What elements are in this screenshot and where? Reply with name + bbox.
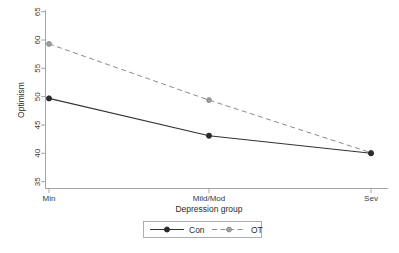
- y-tick-label-50: 50: [33, 92, 42, 101]
- legend-marker-con: [164, 227, 169, 232]
- y-tick-label-35: 35: [33, 177, 42, 186]
- legend-label-con: Con: [189, 225, 205, 235]
- series-ot-point-min: [47, 41, 52, 46]
- y-axis-title: Optimism: [16, 82, 26, 118]
- legend-label-ot: OT: [251, 225, 263, 235]
- y-tick-label-40: 40: [33, 148, 42, 157]
- y-tick-label-55: 55: [33, 63, 42, 72]
- y-tick-label-45: 45: [33, 120, 42, 129]
- y-tick-marks: [41, 12, 46, 182]
- chart-figure: 65 60 55 50 45 40 35 Optimism Min Mild/M…: [0, 0, 399, 253]
- x-tick-label-sev: Sev: [364, 194, 378, 203]
- series-con-line: [49, 98, 371, 153]
- x-tick-labels: Min Mild/Mod Sev: [43, 194, 378, 203]
- series-con-point-mildmod: [206, 133, 211, 138]
- series-ot-point-mildmod: [207, 98, 212, 103]
- y-tick-label-65: 65: [33, 7, 42, 16]
- chart-legend: Con OT: [144, 222, 263, 238]
- y-tick-label-60: 60: [33, 35, 42, 44]
- x-tick-label-mildmod: Mild/Mod: [193, 194, 225, 203]
- x-tick-label-min: Min: [43, 194, 56, 203]
- x-axis-title: Depression group: [175, 204, 242, 214]
- y-tick-labels: 65 60 55 50 45 40 35: [33, 7, 42, 186]
- line-chart: 65 60 55 50 45 40 35 Optimism Min Mild/M…: [0, 0, 399, 253]
- series-con: [46, 96, 373, 156]
- series-con-point-min: [46, 96, 51, 101]
- series-con-point-sev: [368, 151, 373, 156]
- x-tick-marks: [49, 189, 371, 194]
- legend-marker-ot: [227, 227, 232, 232]
